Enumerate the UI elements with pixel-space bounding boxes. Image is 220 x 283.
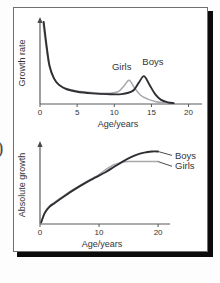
x-axis-tick-labels: 05101520 xyxy=(38,108,194,117)
series-label-boys: Boys xyxy=(142,56,163,67)
y-axis-arrowhead xyxy=(37,17,42,23)
x-axis-tick-label: 10 xyxy=(110,108,119,117)
x-axis-tick-labels: 01020 xyxy=(38,228,163,237)
growth-rate-svg: 05101520 Age/years Growth rate Girls Boy… xyxy=(14,12,208,132)
leader-line-boys xyxy=(158,152,172,156)
series-label-girls: Girls xyxy=(175,160,195,171)
legend-leader-lines xyxy=(158,152,172,167)
x-axis-tick-label: 10 xyxy=(95,228,104,237)
x-axis-tick-label: 5 xyxy=(75,108,80,117)
y-axis-title: Growth rate xyxy=(17,39,27,86)
series-label-girls: Girls xyxy=(112,61,132,72)
absolute-growth-svg: 01020 Age/years Absolute growth Boys Gir… xyxy=(14,132,208,252)
figure-plate: 05101520 Age/years Growth rate Girls Boy… xyxy=(13,7,208,252)
x-axis-tick-label: 15 xyxy=(147,108,156,117)
chart-absolute-growth: 01020 Age/years Absolute growth Boys Gir… xyxy=(14,132,208,252)
absolute-growth-axes xyxy=(37,141,170,227)
y-axis-arrowhead xyxy=(37,141,42,147)
x-axis-tick-label: 0 xyxy=(38,108,43,117)
x-axis-tick-label: 0 xyxy=(38,228,43,237)
chart-growth-rate: 05101520 Age/years Growth rate Girls Boy… xyxy=(14,12,208,132)
x-axis-title: Age/years xyxy=(82,239,123,249)
leader-line-girls xyxy=(158,162,172,167)
figure-plate-background: ) 05101520 Age/years Growth rate Gi xyxy=(0,0,220,283)
series-line-girls xyxy=(41,162,158,223)
series-label-boys: Boys xyxy=(175,150,196,161)
x-axis-tick-label: 20 xyxy=(184,108,193,117)
y-axis-title: Absolute growth xyxy=(17,153,27,218)
absolute-growth-series xyxy=(41,151,158,222)
x-axis-tick-label: 20 xyxy=(154,228,163,237)
x-axis-title: Age/years xyxy=(98,119,139,129)
cropped-edge-glyph: ) xyxy=(0,138,3,157)
